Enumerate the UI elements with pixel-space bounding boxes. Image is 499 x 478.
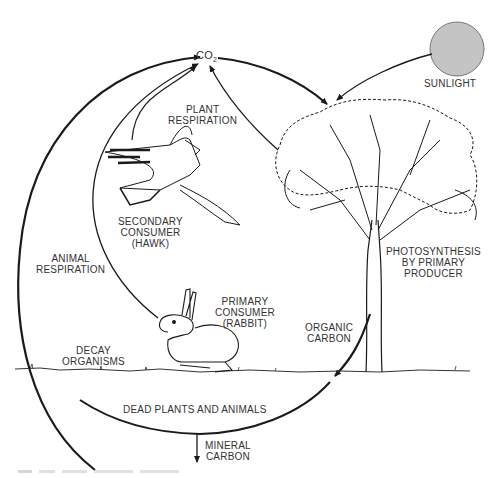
plant-respiration-label: PLANT RESPIRATION <box>168 104 237 126</box>
co2-label: CO2 <box>196 50 217 65</box>
sun-icon <box>430 22 484 76</box>
organic-carbon-label: ORGANIC CARBON <box>305 322 353 344</box>
co2-to-tree-arrow <box>218 58 327 104</box>
dead-plants-animals-label: DEAD PLANTS AND ANIMALS <box>123 404 267 415</box>
mineral-carbon-label: MINERAL CARBON <box>205 440 251 462</box>
photosynthesis-label: PHOTOSYNTHESIS BY PRIMARY PRODUCER <box>386 246 481 279</box>
sunlight-arrow <box>337 54 432 100</box>
hawk-respiration-arrow <box>132 66 196 140</box>
rabbit-label: PRIMARY CONSUMER (RABBIT) <box>215 296 275 329</box>
figure-caption-placeholder <box>18 470 248 473</box>
animal-respiration-label: ANIMAL RESPIRATION <box>36 253 105 275</box>
hawk-label: SECONDARY CONSUMER (HAWK) <box>118 216 183 249</box>
decay-organisms-label: DECAY ORGANISMS <box>62 345 125 367</box>
sunlight-label: SUNLIGHT <box>424 78 476 89</box>
ground-line <box>15 368 470 372</box>
hawk-icon <box>105 126 240 225</box>
